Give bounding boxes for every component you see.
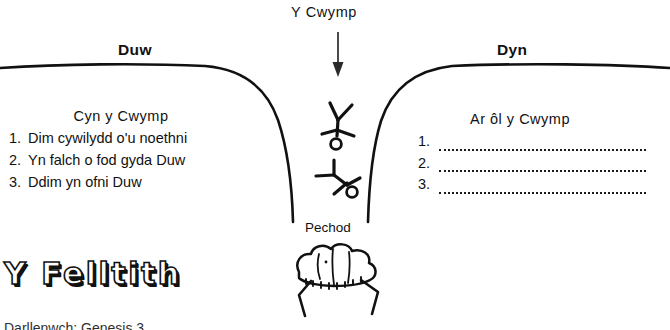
answer-blank-line[interactable] — [439, 134, 646, 151]
down-arrow-icon — [333, 32, 344, 77]
thorn-creature-icon — [297, 244, 378, 316]
header-dyn: Dyn — [497, 41, 527, 59]
right-panel: Ar ôl y Cwymp 1. 2. 3. — [418, 111, 664, 196]
list-item-number: 2. — [0, 149, 28, 171]
list-item: 2. — [418, 153, 664, 175]
left-panel-list: 1. Dim cywilydd o'u noethni 2. Yn falch … — [0, 127, 250, 193]
list-item-number: 1. — [418, 131, 439, 153]
chasm-label-pechod: Pechod — [305, 220, 351, 235]
answer-blank-line[interactable] — [439, 177, 646, 194]
list-item: 3. — [418, 174, 664, 196]
list-item-number: 3. — [0, 171, 28, 193]
left-panel-title: Cyn y Cwymp — [0, 108, 250, 124]
tumbling-stick-figure-icon — [316, 160, 360, 197]
answer-blank-line[interactable] — [439, 155, 646, 172]
list-item-number: 1. — [0, 127, 28, 149]
right-panel-title: Ar ôl y Cwymp — [418, 111, 664, 127]
falling-stick-figure-icon — [322, 103, 354, 149]
list-item-number: 3. — [418, 174, 439, 196]
section-heading-felltith: Y Felltith — [4, 256, 182, 291]
list-item: 1. — [418, 131, 664, 153]
list-item: 2. Yn falch o fod gyda Duw — [0, 149, 250, 171]
list-item: 1. Dim cywilydd o'u noethni — [0, 127, 250, 149]
list-item-text: Ddim yn ofni Duw — [28, 171, 142, 193]
header-duw: Duw — [118, 41, 152, 59]
list-item-text: Yn falch o fod gyda Duw — [28, 149, 185, 171]
worksheet-canvas: Duw Dyn Y Cwymp Pechod Cyn y Cwymp 1. Di… — [0, 0, 670, 330]
list-item-number: 2. — [418, 153, 439, 175]
diagram-title: Y Cwymp — [291, 4, 357, 20]
left-panel: Cyn y Cwymp 1. Dim cywilydd o'u noethni … — [0, 108, 250, 193]
cutoff-text-line: Darllenwch: Genesis 3 — [4, 320, 144, 330]
list-item: 3. Ddim yn ofni Duw — [0, 171, 250, 193]
list-item-text: Dim cywilydd o'u noethni — [28, 127, 187, 149]
right-panel-list: 1. 2. 3. — [418, 131, 664, 196]
